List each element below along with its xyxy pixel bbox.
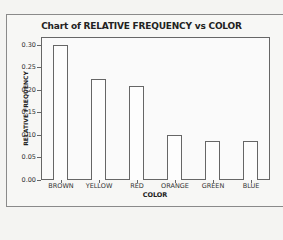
y-tick xyxy=(37,90,41,91)
x-tick-label: ORANGE xyxy=(155,182,195,190)
y-tick-label: 0.00 xyxy=(10,176,36,184)
y-tick xyxy=(37,112,41,113)
bar-yellow xyxy=(91,79,106,180)
y-tick xyxy=(37,135,41,136)
x-tick-label: GREEN xyxy=(193,182,233,190)
bar-brown xyxy=(53,45,68,180)
x-tick-label: YELLOW xyxy=(79,182,119,190)
x-tick-label: BROWN xyxy=(41,182,81,190)
bar-blue xyxy=(243,141,258,180)
plot-area xyxy=(41,37,270,180)
bar-red xyxy=(129,86,144,180)
y-tick-label: 0.30 xyxy=(10,41,36,49)
bar-green xyxy=(205,141,220,180)
chart-title: Chart of RELATIVE FREQUENCY vs COLOR xyxy=(0,21,283,31)
y-tick-label: 0.25 xyxy=(10,63,36,71)
y-tick-label: 0.20 xyxy=(10,86,36,94)
x-axis-title: COLOR xyxy=(130,191,180,199)
y-tick-label: 0.05 xyxy=(10,153,36,161)
y-tick xyxy=(37,157,41,158)
bar-orange xyxy=(167,135,182,180)
y-tick xyxy=(37,180,41,181)
x-tick-label: RED xyxy=(117,182,157,190)
y-tick-label: 0.15 xyxy=(10,108,36,116)
y-tick xyxy=(37,45,41,46)
y-tick-label: 0.10 xyxy=(10,131,36,139)
y-tick xyxy=(37,67,41,68)
x-tick-label: BLUE xyxy=(231,182,271,190)
